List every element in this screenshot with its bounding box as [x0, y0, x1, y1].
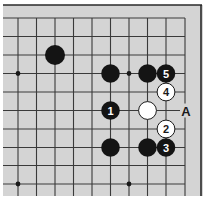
stone-body	[139, 102, 157, 120]
move-number-label: 5	[163, 68, 169, 80]
black-stone-1: 1	[101, 101, 120, 120]
stone-body	[101, 64, 120, 83]
white-stone	[139, 102, 157, 120]
black-stone	[101, 138, 120, 157]
black-stone-3: 3	[157, 138, 176, 157]
board-background	[3, 5, 203, 196]
white-stone-4: 4	[157, 83, 175, 101]
point-marker-a: A	[181, 104, 191, 119]
star-point	[16, 71, 21, 76]
black-stone	[45, 45, 65, 65]
stone-body	[101, 138, 120, 157]
black-stone-5: 5	[157, 64, 176, 83]
stone-body	[138, 64, 157, 83]
stone-body	[45, 45, 65, 65]
star-point	[16, 182, 21, 187]
stone-body	[138, 138, 157, 157]
black-stone	[138, 64, 157, 83]
black-stone	[101, 64, 120, 83]
black-stone	[138, 138, 157, 157]
move-number-label: 3	[163, 142, 169, 154]
markers: A	[180, 104, 192, 119]
move-number-label: 1	[107, 105, 113, 117]
star-point	[127, 71, 132, 76]
move-number-label: 4	[163, 86, 170, 98]
white-stone-2: 2	[157, 120, 175, 138]
star-point	[127, 182, 132, 187]
go-board: 54123 A	[0, 0, 209, 205]
board-surface	[3, 5, 203, 196]
move-number-label: 2	[163, 123, 169, 135]
